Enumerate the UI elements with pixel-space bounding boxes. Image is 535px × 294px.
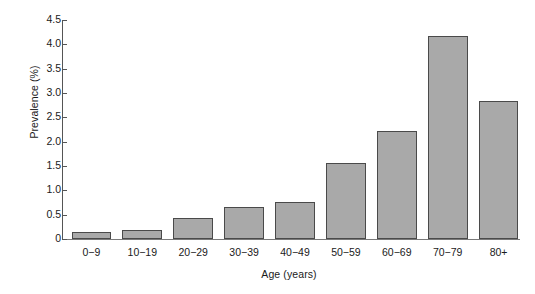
y-tick-mark — [62, 190, 67, 191]
x-tick-label: 70−79 — [422, 246, 473, 258]
y-tick-label: 4.0 — [46, 37, 61, 49]
x-tick-label: 80+ — [473, 246, 524, 258]
bar — [326, 163, 366, 239]
bar — [122, 230, 162, 239]
x-tick-label: 60−69 — [371, 246, 422, 258]
bar-chart-figure: Prevalence (%) 00.51.01.52.02.53.03.54.0… — [0, 0, 535, 294]
y-tick-mark — [62, 117, 67, 118]
y-tick-label: 0.5 — [46, 208, 61, 220]
x-axis-title: Age (years) — [56, 268, 522, 280]
y-tick-label: 1.0 — [46, 183, 61, 195]
x-tick-label: 40−49 — [270, 246, 321, 258]
bar — [224, 207, 264, 239]
y-tick-mark — [62, 215, 67, 216]
x-tick-label: 0−9 — [66, 246, 117, 258]
bar — [377, 131, 417, 239]
y-tick-mark — [62, 20, 67, 21]
y-tick-label: 0 — [55, 232, 61, 244]
x-tick-label: 50−59 — [320, 246, 371, 258]
y-tick-mark — [62, 69, 67, 70]
y-axis-line — [62, 20, 63, 239]
y-axis-title: Prevalence (%) — [28, 22, 40, 182]
bar — [72, 232, 112, 239]
bar — [428, 36, 468, 239]
y-tick-label: 2.0 — [46, 135, 61, 147]
x-tick-label: 20−29 — [168, 246, 219, 258]
y-tick-label: 3.5 — [46, 62, 61, 74]
y-tick-label: 3.0 — [46, 86, 61, 98]
y-tick-label: 1.5 — [46, 159, 61, 171]
x-tick-label: 10−19 — [117, 246, 168, 258]
y-tick-label: 2.5 — [46, 110, 61, 122]
y-tick-mark — [62, 142, 67, 143]
y-tick-mark — [62, 166, 67, 167]
plot-area: 00.51.01.52.02.53.03.54.04.5 0−910−1920−… — [62, 20, 520, 239]
y-tick-mark — [62, 44, 67, 45]
bar — [275, 202, 315, 239]
x-axis-line — [62, 239, 520, 240]
y-tick-mark — [62, 239, 67, 240]
x-tick-label: 30−39 — [219, 246, 270, 258]
bar — [173, 218, 213, 239]
bar — [479, 101, 519, 239]
y-tick-label: 4.5 — [46, 13, 61, 25]
y-tick-mark — [62, 93, 67, 94]
